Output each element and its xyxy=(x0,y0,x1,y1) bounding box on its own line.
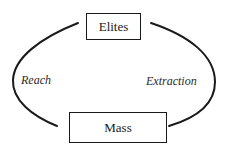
elites-node: Elites xyxy=(86,13,141,40)
mass-label: Mass xyxy=(104,120,131,136)
extraction-edge-label: Extraction xyxy=(146,74,197,89)
mass-node: Mass xyxy=(69,112,167,143)
reach-edge-label: Reach xyxy=(21,73,51,88)
elites-label: Elites xyxy=(99,19,129,35)
diagram-canvas: Elites Mass Reach Extraction xyxy=(0,0,226,151)
